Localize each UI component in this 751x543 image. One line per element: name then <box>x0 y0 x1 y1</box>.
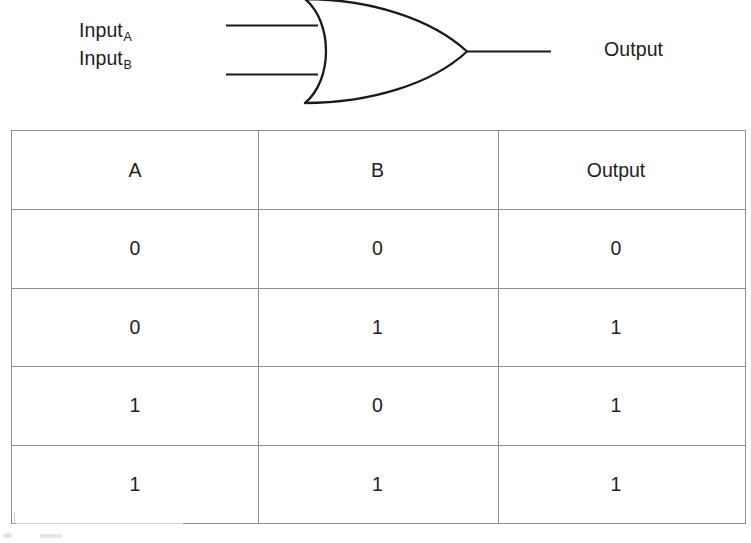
table-row: 1 1 1 <box>12 445 746 524</box>
scan-artifact-vertical <box>14 512 15 524</box>
output-label: Output <box>604 38 663 61</box>
table-row: 1 0 1 <box>12 367 746 446</box>
scan-artifact-mark-right <box>40 534 62 538</box>
table-header-row: A B Output <box>12 131 746 210</box>
cell-b: 0 <box>259 210 499 289</box>
input-a-label: InputA <box>79 18 131 46</box>
header-cell-a: A <box>12 131 259 210</box>
input-b-subscript: B <box>123 58 131 72</box>
cell-a: 0 <box>12 288 259 367</box>
cell-output: 1 <box>499 367 746 446</box>
cell-output: 1 <box>499 445 746 524</box>
table-row: 0 0 0 <box>12 210 746 289</box>
header-cell-output: Output <box>499 131 746 210</box>
truth-table: A B Output 0 0 0 0 1 1 1 0 1 1 <box>11 130 746 524</box>
header-cell-b: B <box>259 131 499 210</box>
scan-artifact-horizontal <box>16 523 183 524</box>
input-a-subscript: A <box>123 30 131 44</box>
table-row: 0 1 1 <box>12 288 746 367</box>
logic-gate-figure: InputA InputB Output A B Output 0 0 0 0 … <box>0 0 751 543</box>
cell-output: 1 <box>499 288 746 367</box>
cell-b: 1 <box>259 445 499 524</box>
input-labels-group: InputA InputB <box>79 18 131 74</box>
cell-b: 1 <box>259 288 499 367</box>
cell-a: 1 <box>12 367 259 446</box>
cell-a: 1 <box>12 445 259 524</box>
input-b-label: InputB <box>79 46 131 74</box>
cell-output: 0 <box>499 210 746 289</box>
or-gate-body <box>305 0 467 103</box>
scan-artifact-mark-left <box>3 533 12 538</box>
cell-a: 0 <box>12 210 259 289</box>
or-gate-diagram: InputA InputB Output <box>0 0 751 125</box>
cell-b: 0 <box>259 367 499 446</box>
